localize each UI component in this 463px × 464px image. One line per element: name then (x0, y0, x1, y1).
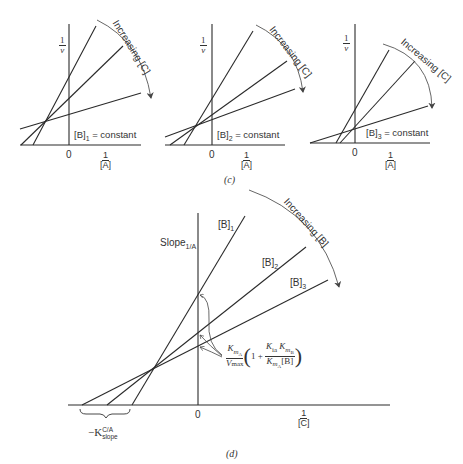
diagram-lines (0, 0, 463, 464)
y-axis-label-c2: 1 v (200, 36, 207, 56)
condition-label-c2: [B]2 = constant (217, 130, 279, 142)
y-axis-label-c1: 1 v (59, 36, 66, 56)
caption-d: (d) (226, 448, 238, 459)
x-axis-label-c2: 1 [A] (240, 151, 253, 171)
x-axis-label-c1: 1 [A] (99, 151, 112, 171)
condition-label-c1: [B]1 = constant (74, 130, 136, 142)
intercept-formula: KmA Vmax ( 1 + Kia KmB KmA[B] ) (226, 342, 302, 370)
line-label-b2: [B]2 (262, 258, 278, 270)
caption-c: (c) (224, 174, 235, 185)
origin-label-d: 0 (195, 410, 201, 420)
x-axis-label-c3: 1 [A] (384, 151, 397, 171)
origin-label-c2: 0 (209, 150, 215, 160)
x-intercept-label: −KC/Aslope (88, 426, 118, 440)
line-label-b1: [B]1 (218, 220, 234, 232)
y-axis-label-d: Slope1/A (160, 238, 196, 250)
condition-label-c3: [B]3 = constant (366, 128, 428, 140)
origin-label-c1: 0 (66, 150, 72, 160)
x-axis-label-d: 1 [C] (297, 409, 311, 429)
y-axis-label-c3: 1 v (343, 34, 350, 54)
line-label-b3: [B]3 (290, 278, 306, 290)
origin-label-c3: 0 (352, 148, 358, 158)
